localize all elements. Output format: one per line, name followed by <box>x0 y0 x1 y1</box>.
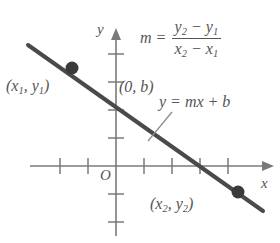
slope-formula-fraction: y2 − y1 x2 − x1 <box>172 18 222 59</box>
y-axis-label: y <box>97 22 104 37</box>
numerator-sub-b: 1 <box>213 26 218 37</box>
point-marker-2 <box>232 186 245 199</box>
denominator-var-b: x <box>206 40 213 57</box>
denominator-var-a: x <box>175 40 182 57</box>
x-axis-label: x <box>261 176 268 191</box>
line-equation-label: y = mx + b <box>159 94 230 110</box>
point1-label: (x1, y1) <box>6 78 49 97</box>
plotted-line <box>28 45 263 211</box>
point-marker-1 <box>66 62 79 75</box>
numerator-minus: − <box>187 18 206 35</box>
slope-formula: m = y2 − y1 x2 − x1 <box>140 18 221 59</box>
line-equation-rhs: mx + b <box>185 93 230 110</box>
numerator-var-b: y <box>206 18 213 35</box>
line-equation-equals: = <box>166 93 185 110</box>
denominator-minus: − <box>187 40 206 57</box>
point2-comma: , <box>168 195 176 212</box>
slope-intercept-figure: y x O (x1, y1) (0, b) y = mx + b (x2, y2… <box>0 0 280 243</box>
slope-formula-denominator: x2 − x1 <box>172 39 222 59</box>
point2-label: (x2, y2) <box>150 196 193 215</box>
intercept-close: ) <box>148 78 153 95</box>
slope-formula-numerator: y2 − y1 <box>172 18 222 38</box>
slope-formula-equals: = <box>157 29 166 47</box>
y-intercept-label: (0, b) <box>119 79 154 95</box>
origin-label: O <box>100 168 111 183</box>
y-axis-arrowhead <box>111 28 121 40</box>
denominator-sub-b: 1 <box>213 48 218 59</box>
x-axis-arrowhead <box>262 161 274 171</box>
numerator-var-a: y <box>175 18 182 35</box>
point2-close: ) <box>188 195 193 212</box>
point1-close: ) <box>44 77 49 94</box>
slope-formula-m: m <box>140 29 152 47</box>
point2-var2: y <box>176 195 183 212</box>
point1-var2: y <box>32 77 39 94</box>
point1-comma: , <box>24 77 32 94</box>
